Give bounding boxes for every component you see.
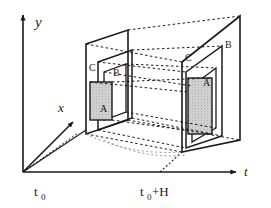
tick-t0: t 0 [34,184,46,202]
y-axis-label: y [33,14,42,30]
back-label-C: C [185,52,192,63]
tick-t0-sub: 0 [41,192,46,202]
t-axis-label: t [244,164,248,179]
front-label-C: C [89,62,96,73]
diagram-svg: y x t t 0 t 0 +H C B A [0,0,271,208]
tick-t0-plus-H: t 0 +H [140,184,169,202]
tick-tH-base: t [140,184,144,199]
figure-canvas: y x t t 0 t 0 +H C B A [0,0,271,208]
back-label-B: B [225,39,232,50]
front-label-B: B [113,67,120,78]
x-axis [23,122,73,172]
slice-t0 [90,50,132,130]
tick-tH-suffix: +H [152,184,169,199]
tick-t0-base: t [34,184,38,199]
floor-guides [23,130,182,172]
front-label-A: A [100,103,108,114]
x-axis-label: x [57,100,64,115]
front-region-A-shaded [90,82,112,120]
